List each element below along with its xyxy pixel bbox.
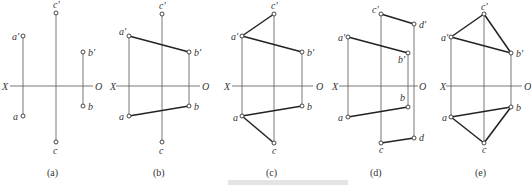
point-label: a'	[119, 26, 127, 37]
point-label: a'	[12, 31, 20, 42]
edge-line	[484, 107, 511, 143]
edge-line	[242, 36, 302, 52]
point-marker	[509, 105, 513, 109]
edge-line	[242, 116, 274, 143]
point-label: a	[338, 112, 343, 123]
point-label: c'	[271, 0, 278, 11]
point-marker	[449, 115, 453, 119]
point-marker	[346, 35, 350, 39]
edge-line	[451, 14, 484, 37]
edge-line	[129, 36, 189, 52]
edge-line	[381, 14, 414, 24]
point-marker	[272, 12, 276, 16]
point-label: c	[159, 145, 164, 156]
panel-label: (e)	[475, 167, 486, 179]
point-label: b'	[516, 48, 524, 59]
point-marker	[21, 114, 25, 118]
point-label: c'	[481, 1, 488, 12]
point-marker	[406, 51, 410, 55]
panel-e: XOa'ac'cb'b(e)	[439, 1, 531, 179]
point-marker	[81, 50, 85, 54]
point-label: c	[482, 144, 487, 155]
orthographic-projection-figure: XOa'ac'cb'b(a)XOa'ac'cb'b(b)XOa'ac'cb'b(…	[0, 0, 532, 188]
point-label: a'	[441, 32, 449, 43]
point-marker	[412, 136, 416, 140]
panel-label: (c)	[266, 167, 277, 179]
point-label: c'	[53, 0, 60, 10]
panel-c: XOa'ac'cb'b(c)	[223, 0, 323, 179]
point-label: b	[307, 101, 312, 112]
axis-label-o: O	[202, 81, 209, 92]
point-label: b	[88, 101, 93, 112]
point-label: a'	[231, 31, 239, 42]
point-marker	[346, 115, 350, 119]
point-marker	[509, 51, 513, 55]
panel-b: XOa'ac'cb'b(b)	[109, 0, 209, 179]
point-marker	[482, 12, 486, 16]
panel-label: (b)	[153, 167, 165, 179]
point-label: c	[272, 145, 277, 156]
point-label: b'	[307, 47, 315, 58]
point-marker	[240, 114, 244, 118]
point-marker	[449, 35, 453, 39]
point-label: a'	[338, 32, 346, 43]
axis-label-o: O	[419, 81, 426, 92]
point-marker	[187, 104, 191, 108]
point-marker	[412, 22, 416, 26]
point-label: a	[233, 112, 238, 123]
point-marker	[379, 12, 383, 16]
point-label: b	[400, 92, 405, 103]
axis-label-x: X	[223, 81, 231, 92]
point-label: c'	[372, 4, 379, 15]
point-marker	[21, 34, 25, 38]
panel-label: (d)	[370, 167, 382, 179]
point-label: c	[379, 144, 384, 155]
point-marker	[300, 104, 304, 108]
figure-caption-placeholder	[228, 180, 348, 185]
panel-a: XOa'ac'cb'b(a)	[1, 0, 102, 179]
point-label: b'	[88, 47, 96, 58]
edge-line	[242, 106, 302, 116]
axis-label-x: X	[1, 81, 9, 92]
point-marker	[81, 104, 85, 108]
axis-label-o: O	[95, 81, 102, 92]
point-marker	[160, 12, 164, 16]
axis-label-x: X	[331, 81, 339, 92]
point-marker	[54, 11, 58, 15]
edge-line	[348, 37, 408, 53]
point-marker	[127, 34, 131, 38]
axis-label-x: X	[109, 81, 117, 92]
axis-label-o: O	[524, 81, 531, 92]
edge-line	[129, 106, 189, 116]
point-marker	[300, 50, 304, 54]
point-marker	[240, 34, 244, 38]
point-label: c'	[159, 0, 166, 11]
point-label: b	[194, 101, 199, 112]
edge-line	[348, 107, 408, 117]
edge-line	[451, 107, 511, 117]
axis-label-o: O	[316, 81, 323, 92]
point-label: c	[53, 145, 58, 156]
point-label: b'	[194, 47, 202, 58]
point-marker	[187, 50, 191, 54]
point-label: a	[442, 112, 447, 123]
point-label: d'	[419, 19, 427, 30]
point-marker	[406, 105, 410, 109]
edge-line	[381, 138, 414, 143]
point-label: d	[419, 132, 425, 143]
point-label: a	[13, 111, 18, 122]
panel-d: XOa'ac'cb'bd'd(d)	[331, 4, 427, 179]
point-label: b'	[398, 54, 406, 65]
point-label: b	[516, 102, 521, 113]
point-marker	[127, 114, 131, 118]
edge-line	[451, 117, 484, 143]
panel-label: (a)	[47, 167, 58, 179]
axis-label-x: X	[439, 81, 447, 92]
point-marker	[160, 140, 164, 144]
point-label: a	[119, 111, 124, 122]
edge-line	[242, 14, 274, 36]
point-marker	[54, 140, 58, 144]
